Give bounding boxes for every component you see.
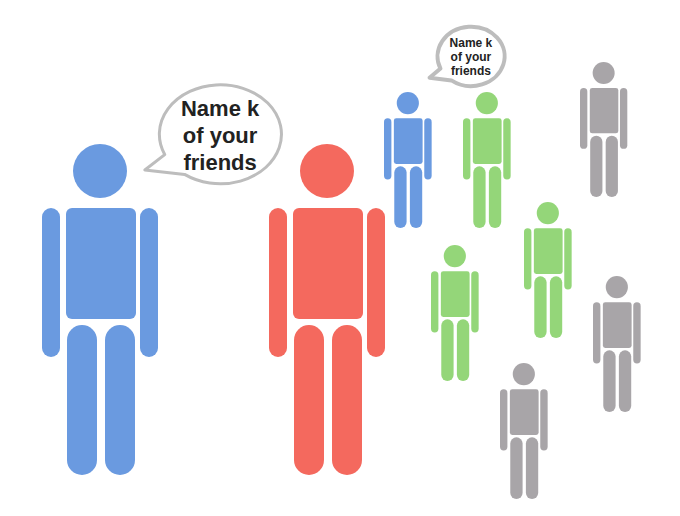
other-gray-3-person-icon [500, 363, 548, 499]
person-right-leg [105, 325, 135, 475]
person-right-arm [367, 208, 385, 357]
person-right-arm [564, 228, 571, 289]
person-torso [473, 118, 502, 164]
friend-green-2-person-icon [524, 202, 572, 338]
person-left-arm [593, 302, 600, 363]
person-left-arm [463, 118, 470, 179]
speech-bubble-line: of your [436, 50, 506, 64]
person-left-leg [67, 325, 97, 475]
person-torso [394, 118, 423, 164]
person-left-leg [510, 437, 522, 499]
person-head [300, 144, 354, 198]
person-right-arm [424, 118, 431, 179]
person-torso [534, 228, 563, 274]
person-right-arm [540, 389, 547, 450]
person-torso [293, 208, 363, 319]
person-left-arm [524, 228, 531, 289]
person-left-arm [500, 389, 507, 450]
person-right-leg [489, 166, 501, 228]
person-head [606, 276, 628, 298]
person-left-leg [394, 166, 406, 228]
person-torso [510, 389, 539, 435]
person-left-arm [580, 88, 587, 149]
person-right-arm [140, 208, 158, 357]
speech-bubble-line: Name k [156, 95, 284, 122]
person-head [397, 92, 419, 114]
person-right-leg [457, 319, 469, 381]
speech-bubble-line: friends [156, 149, 284, 176]
speech-bubble-line: of your [156, 122, 284, 149]
person-left-leg [473, 166, 485, 228]
person-right-leg [410, 166, 422, 228]
person-right-arm [503, 118, 510, 179]
person-left-leg [603, 350, 615, 412]
person-torso [603, 302, 632, 348]
named-friend-red-person-icon [269, 144, 385, 475]
small-speech-bubble: Name kof yourfriends [428, 25, 506, 91]
speech-bubble-text: Name kof yourfriends [428, 36, 506, 78]
ego-person-small-person-icon [384, 92, 432, 228]
person-left-leg [441, 319, 453, 381]
person-torso [66, 208, 136, 319]
person-head [476, 92, 498, 114]
speech-bubble-text: Name kof yourfriends [142, 95, 284, 176]
person-right-leg [332, 325, 362, 475]
person-head [593, 62, 615, 84]
person-left-arm [384, 118, 391, 179]
person-torso [441, 271, 470, 317]
person-right-leg [550, 276, 562, 338]
ego-person-large-person-icon [42, 144, 158, 475]
person-left-arm [431, 271, 438, 332]
person-left-leg [591, 136, 603, 197]
person-head [73, 144, 127, 198]
friend-green-1-person-icon [463, 92, 511, 228]
speech-bubble-line: Name k [436, 36, 506, 50]
person-right-arm [633, 302, 640, 363]
person-head [537, 202, 559, 224]
large-speech-bubble: Name kof yourfriends [142, 82, 284, 192]
person-left-arm [269, 208, 287, 357]
other-gray-1-person-icon [580, 62, 627, 197]
speech-bubble-line: friends [436, 64, 506, 78]
person-right-leg [619, 350, 631, 412]
person-right-leg [526, 437, 538, 499]
person-left-arm [42, 208, 60, 357]
person-right-arm [471, 271, 478, 332]
person-right-leg [606, 136, 618, 197]
person-torso [590, 88, 619, 133]
person-left-leg [534, 276, 546, 338]
friend-green-3-person-icon [431, 245, 479, 381]
person-right-arm [620, 88, 627, 149]
person-head [444, 245, 466, 267]
person-left-leg [294, 325, 324, 475]
other-gray-2-person-icon [593, 276, 641, 412]
person-head [513, 363, 535, 385]
